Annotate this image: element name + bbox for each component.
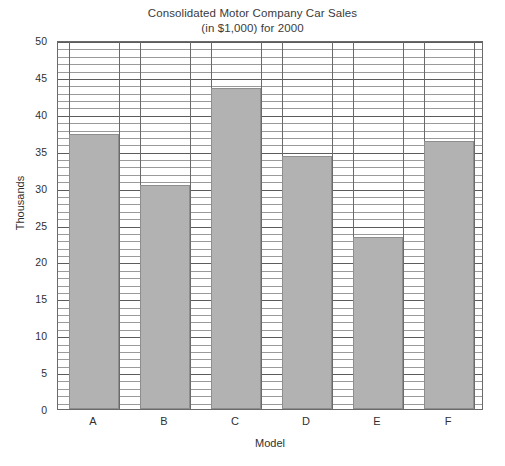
y-tick-label: 15 bbox=[35, 294, 47, 304]
x-tick-label: C bbox=[215, 414, 255, 428]
y-tick-label: 45 bbox=[35, 73, 47, 83]
y-tick-label: 35 bbox=[35, 147, 47, 157]
x-tick-label: E bbox=[357, 414, 397, 428]
x-axis-title: Model bbox=[57, 437, 483, 449]
x-tick-label: F bbox=[428, 414, 468, 428]
y-tick-label: 10 bbox=[35, 331, 47, 341]
y-tick-label: 20 bbox=[35, 257, 47, 267]
x-tick-label: A bbox=[73, 414, 113, 428]
y-tick-label: 25 bbox=[35, 221, 47, 231]
y-axis-tick-labels: 05101520253035404550 bbox=[0, 41, 52, 410]
x-tick-label: D bbox=[286, 414, 326, 428]
bar-f bbox=[424, 141, 474, 409]
chart-subtitle: (in $1,000) for 2000 bbox=[0, 21, 505, 36]
bar-d bbox=[282, 156, 332, 409]
bar-e bbox=[353, 237, 403, 409]
y-tick-label: 5 bbox=[41, 368, 47, 378]
chart-title-main: Consolidated Motor Company Car Sales bbox=[0, 6, 505, 21]
bar-chart-figure: Consolidated Motor Company Car Sales (in… bbox=[0, 0, 505, 466]
chart-title: Consolidated Motor Company Car Sales (in… bbox=[0, 6, 505, 36]
y-tick-label: 30 bbox=[35, 184, 47, 194]
bar-b bbox=[140, 185, 190, 409]
x-tick-label: B bbox=[144, 414, 184, 428]
y-tick-label: 50 bbox=[35, 36, 47, 46]
y-axis-title: Thousands bbox=[14, 163, 26, 243]
bar-a bbox=[69, 134, 119, 409]
bar-c bbox=[211, 88, 261, 409]
plot-area bbox=[57, 41, 483, 410]
x-axis-tick-labels: ABCDEF bbox=[57, 414, 483, 430]
y-tick-label: 0 bbox=[41, 405, 47, 415]
bars-group bbox=[58, 42, 482, 409]
y-tick-label: 40 bbox=[35, 110, 47, 120]
